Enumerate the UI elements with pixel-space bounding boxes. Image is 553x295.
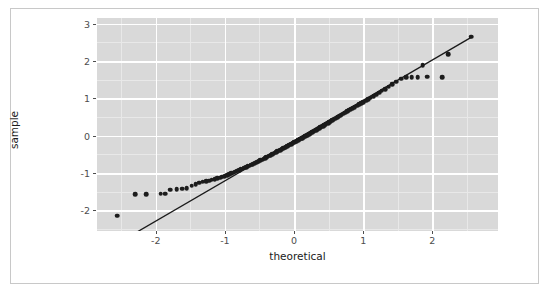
x-axis-label: theoretical (97, 250, 498, 262)
x-tick-mark (156, 231, 157, 234)
gridline-major-vertical (432, 18, 434, 231)
y-tick-label: -1 (62, 168, 90, 179)
data-point (115, 213, 120, 218)
gridline-major-vertical (363, 18, 365, 231)
x-tick-mark (432, 231, 433, 234)
x-tick-mark (225, 231, 226, 234)
gridline-minor-vertical (190, 18, 191, 231)
x-tick-mark (294, 231, 295, 234)
gridline-minor-vertical (121, 18, 122, 231)
x-tick-label: -1 (220, 235, 229, 246)
gridline-major-horizontal (97, 98, 498, 100)
x-tick-label: 2 (429, 235, 435, 246)
x-tick-label: -2 (151, 235, 160, 246)
gridline-major-vertical (294, 18, 296, 231)
y-tick-label: 0 (62, 130, 90, 141)
y-tick-mark (93, 24, 96, 25)
data-point (168, 188, 173, 193)
y-tick-mark (93, 210, 96, 211)
plot-panel (97, 18, 498, 231)
data-point (440, 75, 445, 80)
y-tick-label: 3 (62, 18, 90, 29)
y-tick-mark (93, 173, 96, 174)
data-point (409, 75, 414, 80)
data-point (404, 75, 409, 80)
gridline-minor-vertical (259, 18, 260, 231)
data-point (133, 192, 138, 197)
y-tick-label: 1 (62, 93, 90, 104)
gridline-major-horizontal (97, 61, 498, 63)
data-point (425, 74, 430, 79)
gridline-major-horizontal (97, 24, 498, 26)
y-tick-mark (93, 61, 96, 62)
x-tick-label: 0 (291, 235, 297, 246)
data-point (394, 79, 399, 84)
gridline-minor-vertical (467, 18, 468, 231)
data-point (144, 192, 149, 197)
data-point (446, 52, 451, 57)
y-tick-mark (93, 98, 96, 99)
qq-plot: -2-10123 -2-1012 sample theoretical (0, 0, 553, 295)
data-point (416, 75, 421, 80)
data-point (469, 34, 474, 39)
y-tick-label: 2 (62, 55, 90, 66)
gridline-major-horizontal (97, 173, 498, 175)
gridline-minor-vertical (398, 18, 399, 231)
gridline-major-vertical (156, 18, 158, 231)
data-point (163, 191, 168, 196)
x-tick-label: 1 (360, 235, 366, 246)
x-tick-mark (363, 231, 364, 234)
data-point (420, 63, 425, 68)
gridline-major-horizontal (97, 210, 498, 212)
gridline-major-vertical (225, 18, 227, 231)
data-point (174, 187, 179, 192)
y-tick-mark (93, 136, 96, 137)
y-axis-label: sample (8, 111, 20, 149)
y-tick-label: -2 (62, 205, 90, 216)
